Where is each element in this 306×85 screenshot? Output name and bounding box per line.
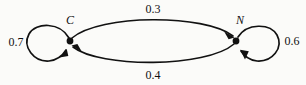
node-label-n: N (235, 13, 245, 27)
node-dot-n[interactable] (233, 38, 240, 45)
self-loop-c-arrowhead (60, 49, 69, 57)
weight-label-c-to-n: 0.3 (146, 2, 161, 16)
node-dot-c[interactable] (67, 38, 74, 45)
state-transition-diagram: C N 0.7 0.3 0.4 0.6 (0, 0, 306, 85)
edge-n-to-c-path (73, 44, 234, 62)
edge-c-to-n-path (72, 20, 233, 38)
weight-label-self-c: 0.7 (9, 35, 24, 49)
weight-label-n-to-c: 0.4 (146, 68, 161, 82)
node-label-c: C (66, 13, 75, 27)
weight-label-self-n: 0.6 (285, 34, 300, 48)
diagram-svg: C N 0.7 0.3 0.4 0.6 (0, 0, 306, 85)
